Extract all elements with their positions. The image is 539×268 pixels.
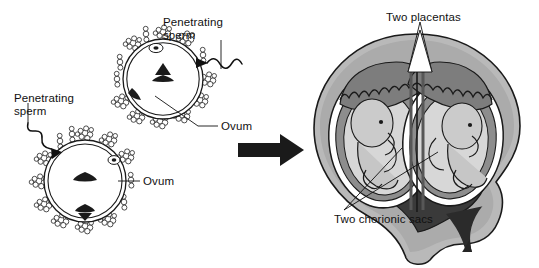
label-two-placentas: Two placentas [386, 11, 461, 24]
label-ovum-lower: Ovum [143, 175, 174, 188]
right-fetus-head [442, 103, 482, 149]
left-fetus-head [351, 99, 393, 147]
left-panel-two-ova [0, 0, 270, 268]
perivitelline-dot-lower [112, 158, 117, 161]
arrow-shape [238, 134, 304, 166]
figure-canvas: Penetrating sperm Penetrating sperm Ovum… [0, 0, 539, 268]
right-fetus-eye [468, 123, 472, 127]
sperm-tail-lower [28, 123, 51, 149]
sperm-tail-upper [207, 59, 242, 69]
perivitelline-dot-upper [153, 46, 158, 50]
label-penetrating-sperm-upper: Penetrating sperm [163, 16, 223, 42]
left-fetus-eye [379, 120, 383, 124]
label-penetrating-sperm-lower: Penetrating sperm [14, 92, 74, 118]
label-two-chorionic-sacs: Two chorionic sacs [334, 213, 433, 226]
lower-ovum-group [28, 103, 140, 234]
right-panel-uterus [296, 0, 539, 268]
